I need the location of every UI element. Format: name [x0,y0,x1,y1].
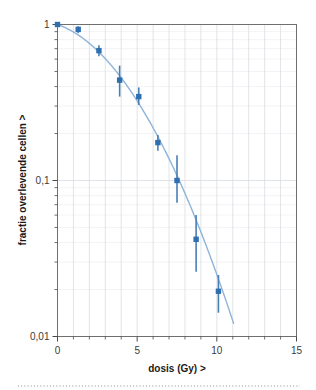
x-tick-labels: 051015 [55,345,303,356]
y-axis-title: fractie overlevende cellen > [17,114,28,245]
data-point-marker[interactable] [76,27,81,32]
x-axis-title: dosis (Gy) > [148,363,206,374]
y-axis-ticks [53,25,58,337]
data-point-marker[interactable] [155,140,160,145]
chart-canvas: 10,10,01 051015 dosis (Gy) > fractie ove… [0,0,316,390]
data-point-marker[interactable] [55,22,60,27]
y-tick-label: 1 [44,19,50,30]
y-tick-label: 0,01 [30,331,50,342]
y-tick-labels: 10,10,01 [30,19,50,342]
data-point-marker[interactable] [216,289,221,294]
data-point-marker[interactable] [117,77,122,82]
data-point-marker[interactable] [136,94,141,99]
x-tick-label: 5 [134,345,140,356]
survival-curve-plot: 10,10,01 051015 dosis (Gy) > fractie ove… [0,0,316,390]
fit-curve [58,25,234,324]
error-bars [78,26,218,313]
x-tick-label: 0 [55,345,61,356]
x-tick-label: 15 [291,345,303,356]
data-point-marker[interactable] [174,178,179,183]
x-tick-label: 10 [211,345,223,356]
data-point-marker[interactable] [193,237,198,242]
x-axis-ticks [58,337,297,342]
data-point-marker[interactable] [96,48,101,53]
chart-figure: 10,10,01 051015 dosis (Gy) > fractie ove… [0,0,316,390]
y-tick-label: 0,1 [36,175,50,186]
